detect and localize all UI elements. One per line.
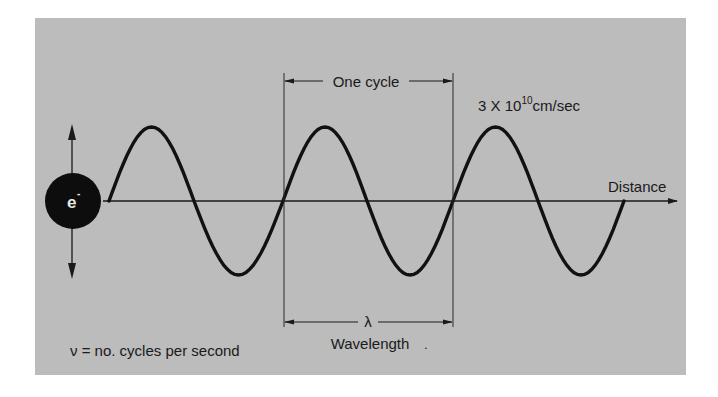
speed-unit: cm/sec	[533, 97, 581, 114]
speed-label: 3 X 1010cm/sec	[478, 95, 581, 114]
electron-charge: -	[77, 188, 80, 199]
distance-axis-label: Distance	[608, 178, 666, 195]
wavelength-mark: .	[424, 337, 428, 352]
wavelength-label: Wavelength	[331, 335, 410, 352]
oscillation-arrow-up-icon	[68, 124, 76, 140]
wave-diagram: Distance e - One cycle 3 X 1010cm/sec λ …	[0, 0, 718, 397]
lambda-symbol: λ	[364, 313, 372, 330]
speed-exponent: 10	[521, 95, 533, 106]
speed-base: 3 X 10	[478, 97, 521, 114]
oscillation-arrow-down-icon	[68, 263, 76, 279]
one-cycle-label: One cycle	[333, 73, 400, 90]
electron-label: e	[67, 193, 76, 212]
frequency-definition: ν = no. cycles per second	[70, 342, 240, 359]
